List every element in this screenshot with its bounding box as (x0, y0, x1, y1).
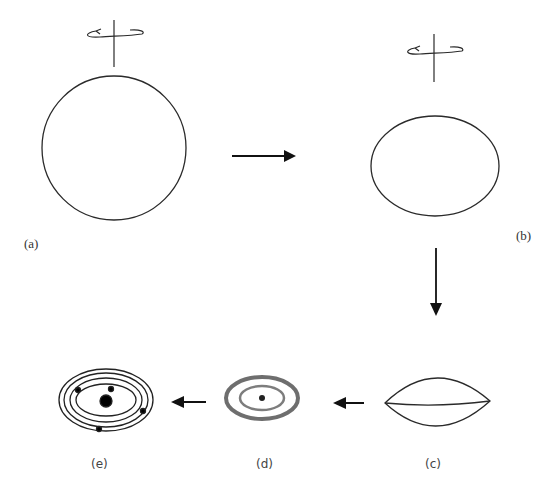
rotation-axis-icon (87, 20, 143, 67)
panel-label-d: (d) (256, 457, 273, 471)
central-star (100, 395, 112, 407)
rotation-axis-icon (408, 34, 463, 82)
planet (76, 388, 81, 393)
planet (141, 409, 146, 414)
panel-c (385, 378, 490, 426)
arrow-left-icon (171, 396, 206, 408)
arrow-right-icon (232, 150, 296, 162)
lens-disk (385, 378, 490, 426)
panel-b (371, 34, 499, 216)
panel-label-c: (c) (425, 457, 441, 471)
oblate-cloud (371, 116, 499, 216)
arrow-down-icon (430, 248, 442, 316)
planet (97, 427, 102, 432)
planet (109, 387, 114, 392)
panel-label-a: (a) (24, 236, 38, 252)
arrow-left-icon (333, 397, 364, 409)
diagram-canvas (0, 0, 556, 501)
central-core (259, 395, 265, 401)
panel-label-e: (e) (91, 457, 108, 471)
panel-a (42, 20, 186, 220)
panel-e (59, 369, 153, 432)
panel-label-b: (b) (516, 228, 531, 244)
lens-midplane (385, 401, 490, 405)
sphere-cloud (42, 76, 186, 220)
panel-d (226, 377, 298, 419)
